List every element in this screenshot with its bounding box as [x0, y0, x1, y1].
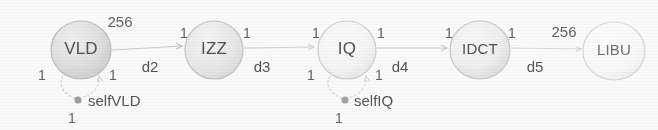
self-loop-weight-selfiq-bottom: 1	[335, 110, 343, 126]
edge-name-d4: d4	[392, 58, 409, 75]
edge-weight-d5-source: 1	[508, 25, 516, 41]
self-loop-weight-selfiq-right: 1	[375, 67, 383, 83]
edge-d3[interactable]	[244, 47, 314, 48]
self-loop-weight-selfvld-right: 1	[109, 67, 117, 83]
edge-name-d3: d3	[254, 58, 271, 75]
self-loop-dot-selfiq[interactable]	[342, 97, 349, 104]
self-loop-weight-selfvld-left: 1	[38, 67, 46, 83]
self-loop-name-selfiq: selfIQ	[354, 92, 393, 109]
node-idct[interactable]: IDCT	[450, 21, 510, 79]
edge-d5[interactable]	[511, 48, 581, 49]
edge-weight-d4-target: 1	[445, 25, 453, 41]
edge-d2[interactable]	[112, 46, 182, 50]
node-iq[interactable]: IQ	[318, 21, 376, 79]
node-izz[interactable]: IZZ	[185, 21, 243, 79]
edge-line-d5	[511, 48, 581, 49]
node-label-libu: LIBU	[597, 41, 631, 58]
self-loop-dot-selfvld[interactable]	[75, 97, 82, 104]
node-vld[interactable]: VLD	[51, 21, 111, 79]
graph-svg: VLD IZZ IQ IDCT LIBU d2 d3 d4 d5 256 1 1…	[0, 0, 658, 130]
edge-name-d2: d2	[142, 58, 159, 75]
node-label-iq: IQ	[338, 39, 356, 58]
self-loop-in-selfvld	[61, 76, 77, 99]
self-loop-in-selfiq	[328, 76, 344, 99]
node-libu[interactable]: LIBU	[583, 22, 645, 80]
node-label-vld: VLD	[64, 39, 98, 58]
edge-name-d5: d5	[527, 58, 544, 75]
self-loop-name-selfvld: selfVLD	[88, 92, 141, 109]
edge-line-d2	[112, 46, 182, 50]
edge-weight-d2-source: 256	[107, 13, 132, 30]
edge-weight-d4-source: 1	[377, 25, 385, 41]
node-label-idct: IDCT	[462, 40, 498, 57]
edge-weight-d5-target: 256	[551, 23, 576, 40]
edge-line-d3	[244, 47, 314, 48]
node-label-izz: IZZ	[201, 39, 227, 58]
edge-weight-d3-source: 1	[243, 25, 251, 41]
edge-weight-d3-target: 1	[312, 25, 320, 41]
diagram-canvas: VLD IZZ IQ IDCT LIBU d2 d3 d4 d5 256 1 1…	[0, 0, 658, 130]
edge-weight-d2-target: 1	[180, 25, 188, 41]
self-loop-weight-selfvld-bottom: 1	[68, 110, 76, 126]
self-loop-weight-selfiq-left: 1	[307, 67, 315, 83]
